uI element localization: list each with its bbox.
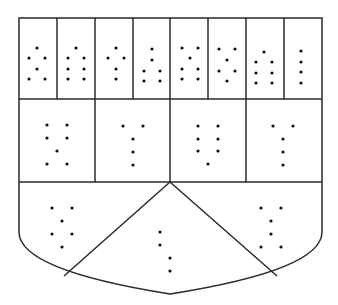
braille-dot xyxy=(114,77,117,80)
braille-dot xyxy=(271,124,274,127)
braille-dot xyxy=(50,232,53,235)
braille-dot xyxy=(150,58,153,61)
braille-dot xyxy=(106,56,109,59)
braille-dot xyxy=(196,149,199,152)
braille-dot xyxy=(82,67,85,70)
braille-dot xyxy=(196,124,199,127)
braille-dot xyxy=(254,81,257,84)
braille-dot xyxy=(206,162,209,165)
braille-dot xyxy=(180,77,183,80)
braille-dot xyxy=(216,137,219,140)
braille-dot xyxy=(114,67,117,70)
braille-dot xyxy=(65,136,68,139)
braille-dot xyxy=(233,69,236,72)
braille-dot xyxy=(43,56,46,59)
braille-dot xyxy=(196,137,199,140)
braille-dot xyxy=(141,124,144,127)
braille-dot xyxy=(188,56,191,59)
braille-dot xyxy=(65,123,68,126)
braille-dot xyxy=(259,206,262,209)
braille-dot xyxy=(216,149,219,152)
braille-dot xyxy=(270,60,273,63)
braille-dot xyxy=(50,206,53,209)
braille-dot xyxy=(233,47,236,50)
braille-dot xyxy=(66,56,69,59)
braille-dot xyxy=(27,56,30,59)
braille-dot xyxy=(270,71,273,74)
braille-dot xyxy=(196,67,199,70)
braille-dot xyxy=(45,123,48,126)
braille-dot xyxy=(35,67,38,70)
braille-dot xyxy=(225,79,228,82)
braille-dot xyxy=(114,46,117,49)
braille-dot xyxy=(74,46,77,49)
braille-dot xyxy=(60,219,63,222)
braille-dot xyxy=(150,47,153,50)
braille-dot xyxy=(299,70,302,73)
braille-dot xyxy=(122,56,125,59)
braille-dot xyxy=(180,67,183,70)
braille-dot xyxy=(262,50,265,53)
braille-dot xyxy=(43,77,46,80)
braille-dot xyxy=(196,46,199,49)
braille-dot xyxy=(254,60,257,63)
braille-dot xyxy=(45,162,48,165)
braille-dot xyxy=(158,243,161,246)
braille-dot xyxy=(55,149,58,152)
chevron-line xyxy=(64,182,170,276)
chevron-line xyxy=(170,182,277,276)
braille-dot xyxy=(27,77,30,80)
braille-dot xyxy=(180,46,183,49)
braille-dot xyxy=(291,124,294,127)
braille-dot xyxy=(168,256,171,259)
braille-dot xyxy=(168,269,171,272)
braille-dot xyxy=(65,162,68,165)
braille-dot xyxy=(259,245,262,248)
braille-dot xyxy=(142,79,145,82)
braille-dot xyxy=(279,206,282,209)
braille-dot xyxy=(82,77,85,80)
braille-dot xyxy=(225,58,228,61)
braille-dot xyxy=(299,49,302,52)
braille-dot xyxy=(281,163,284,166)
braille-dot xyxy=(270,81,273,84)
braille-dot xyxy=(60,245,63,248)
braille-dot xyxy=(66,77,69,80)
shield-dividers xyxy=(19,18,322,276)
braille-dot xyxy=(158,230,161,233)
braille-dot xyxy=(281,150,284,153)
braille-dot xyxy=(281,137,284,140)
braille-dot xyxy=(45,136,48,139)
shield-diagram xyxy=(0,0,338,305)
braille-dots xyxy=(27,46,302,272)
braille-dot xyxy=(279,245,282,248)
braille-dot xyxy=(299,81,302,84)
braille-dot xyxy=(131,150,134,153)
braille-dot xyxy=(121,124,124,127)
braille-dot xyxy=(35,46,38,49)
braille-dot xyxy=(82,56,85,59)
braille-dot xyxy=(131,137,134,140)
braille-dot xyxy=(196,77,199,80)
braille-dot xyxy=(217,47,220,50)
braille-dot xyxy=(269,232,272,235)
braille-dot xyxy=(70,232,73,235)
braille-dot xyxy=(254,71,257,74)
braille-dot xyxy=(70,206,73,209)
braille-dot xyxy=(216,124,219,127)
braille-dot xyxy=(142,69,145,72)
braille-dot xyxy=(217,69,220,72)
braille-dot xyxy=(131,163,134,166)
braille-dot xyxy=(299,60,302,63)
braille-dot xyxy=(158,69,161,72)
braille-dot xyxy=(66,67,69,70)
braille-dot xyxy=(269,219,272,222)
braille-dot xyxy=(158,79,161,82)
